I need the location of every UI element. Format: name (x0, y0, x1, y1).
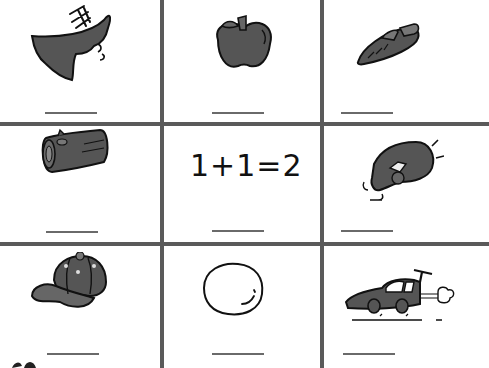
cell-r3-c3 (324, 246, 489, 368)
carrot-icon (354, 18, 426, 68)
finger-tap-icon (358, 138, 444, 210)
egg-icon (200, 260, 268, 318)
answer-blank[interactable] (46, 231, 98, 233)
bird-wing-icon (28, 4, 116, 84)
cell-r2-c2: 1+1=2 (164, 126, 320, 242)
answer-blank[interactable] (341, 112, 393, 114)
cell-r1-c3 (324, 0, 489, 122)
cell-r2-c3 (324, 126, 489, 242)
cropped-shape-fragment (12, 360, 36, 368)
answer-blank[interactable] (45, 112, 97, 114)
math-equation: 1+1=2 (190, 148, 303, 183)
apple-icon (210, 12, 280, 72)
cell-r3-c2 (164, 246, 320, 368)
answer-blank[interactable] (212, 353, 264, 355)
answer-blank[interactable] (212, 230, 264, 232)
cell-r1-c1 (0, 0, 160, 122)
answer-blank[interactable] (343, 353, 395, 355)
cell-r3-c1 (0, 246, 160, 368)
worksheet: 1+1=2 (0, 0, 489, 368)
log-icon (38, 128, 110, 176)
answer-blank[interactable] (47, 353, 99, 355)
answer-blank[interactable] (212, 112, 264, 114)
cell-r1-c2 (164, 0, 320, 122)
answer-blank[interactable] (341, 230, 393, 232)
race-car-icon (342, 268, 460, 324)
cap-icon (30, 252, 110, 312)
cell-r2-c1 (0, 126, 160, 242)
